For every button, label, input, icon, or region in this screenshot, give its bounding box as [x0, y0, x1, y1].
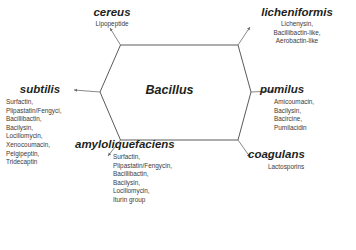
node-coagulans-compounds: Lactosporins: [248, 163, 356, 172]
compound-item: Lactosporins: [268, 163, 356, 172]
node-licheniformis-compounds: Lichenysin, Bacillibactin-like, Aerobact…: [238, 20, 356, 46]
compound-item: Plipastatin/Fengyci,: [6, 107, 78, 116]
compound-item: Bacilysin,: [274, 107, 354, 116]
compound-item: Bacilysin,: [6, 124, 78, 133]
node-cereus: cereus Lipopeptide: [52, 6, 172, 29]
node-subtilis-compounds: Surfactin, Plipastatin/Fengyci, Bacillib…: [2, 98, 78, 167]
compound-item: Bacillibactin,: [113, 170, 225, 179]
compound-item: Bacircine,: [274, 115, 354, 124]
compound-item: Amicoumacin,: [274, 98, 354, 107]
compound-item: Surfactin,: [6, 98, 78, 107]
compound-item: Iturin group: [113, 196, 225, 205]
node-pumilus-title: pumilus: [256, 83, 354, 96]
compound-item: Pelgipeptin,: [6, 150, 78, 159]
node-coagulans: coagulans Lactosporins: [248, 148, 356, 172]
node-cereus-title: cereus: [52, 6, 172, 19]
node-cereus-compounds: Lipopeptide: [52, 20, 172, 29]
node-coagulans-title: coagulans: [248, 148, 356, 161]
bacillus-species-diagram: Bacillus cereus Lipopeptide licheniformi…: [0, 0, 356, 250]
node-amyloliquefaciens-compounds: Surfactin, Plipastatin/Fengycin, Bacilli…: [75, 153, 225, 205]
node-subtilis: subtilis Surfactin, Plipastatin/Fengyci,…: [2, 83, 78, 167]
node-pumilus-compounds: Amicoumacin, Bacilysin, Bacircine, Pumil…: [256, 98, 354, 132]
center-genus-label: Bacillus: [100, 83, 239, 97]
compound-item: Bacillibactin,: [6, 115, 78, 124]
node-pumilus: pumilus Amicoumacin, Bacilysin, Bacircin…: [256, 83, 354, 132]
compound-item: Surfactin,: [113, 153, 225, 162]
compound-item: Locillomycin,: [6, 132, 78, 141]
compound-item: Locillomycin,: [113, 187, 225, 196]
compound-item: Xenocoumacin,: [6, 141, 78, 150]
compound-item: Bacilysin,: [113, 179, 225, 188]
node-amyloliquefaciens: amyloliquefaciens Surfactin, Plipastatin…: [75, 138, 225, 205]
node-amyloliquefaciens-title: amyloliquefaciens: [75, 138, 225, 151]
node-licheniformis-title: licheniformis: [238, 6, 356, 19]
compound-item: Plipastatin/Fengycin,: [113, 162, 225, 171]
node-subtilis-title: subtilis: [2, 83, 78, 96]
node-licheniformis: licheniformis Lichenysin, Bacillibactin-…: [238, 6, 356, 46]
connector-cereus: [110, 28, 121, 45]
compound-item: Pumilacidin: [274, 124, 354, 133]
compound-item: Lichenysin,: [238, 20, 356, 29]
compound-item: Bacillibactin-like,: [238, 29, 356, 38]
compound-item: Tridecaptin: [6, 158, 78, 167]
compound-item: Lipopeptide: [52, 20, 172, 29]
compound-item: Aerobactin-like: [238, 37, 356, 46]
